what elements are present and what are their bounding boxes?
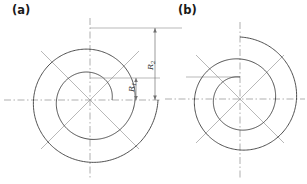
dimension-label-r1-group: R1 — [127, 82, 137, 93]
dimension-group: R1 R2 — [90, 28, 182, 100]
dimension-r1-symbol: R — [127, 86, 136, 93]
dimension-r2-subscript: 2 — [150, 60, 156, 65]
panel-a-group — [4, 18, 160, 180]
panel-b-group — [165, 22, 305, 178]
dimension-arrow-r2-bottom — [153, 96, 157, 101]
dimension-r2-symbol: R — [146, 64, 155, 71]
spiral-diagram-svg: R1 R2 — [0, 0, 307, 184]
figure-container: (a) (b) — [0, 0, 307, 184]
dimension-label-r2-group: R2 — [146, 60, 156, 71]
dimension-label-r1: R1 — [127, 82, 137, 93]
dimension-arrow-r2-top — [153, 28, 157, 33]
dimension-label-r2: R2 — [146, 60, 156, 71]
dimension-r1-subscript: 1 — [131, 82, 137, 86]
dimension-arrow-r1-top — [134, 78, 138, 82]
